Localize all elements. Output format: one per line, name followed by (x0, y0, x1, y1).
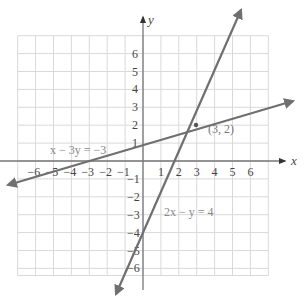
x-tick-label: 2 (176, 165, 182, 179)
x-tick-label: 5 (230, 165, 236, 179)
equation-label-2: 2x − y = 4 (164, 205, 214, 219)
y-tick-label: 4 (132, 82, 138, 96)
y-tick-label: 3 (132, 100, 138, 114)
y-tick-label: −1 (127, 172, 140, 186)
y-tick-label: 2 (132, 118, 138, 132)
intersection-label: (3, 2) (208, 122, 234, 136)
x-axis-label: x (290, 153, 297, 168)
equation-label-1: x − 3y = −3 (50, 143, 106, 157)
y-tick-label: 5 (132, 65, 138, 79)
x-tick-label: 4 (212, 165, 218, 179)
y-tick-label: −2 (127, 190, 140, 204)
y-tick-label: −4 (127, 226, 140, 240)
y-axis-label: y (146, 12, 154, 27)
x-tick-label: 1 (158, 165, 164, 179)
y-tick-label: 6 (132, 47, 138, 61)
x-tick-label: −2 (99, 165, 112, 179)
x-tick-label: 3 (194, 165, 200, 179)
intersection-point (194, 123, 198, 127)
x-tick-label: −3 (81, 165, 94, 179)
coordinate-plane: x y −6−5−4−3−2−1123456654321−1−2−3−4−5−6… (0, 0, 308, 308)
y-tick-label: −3 (127, 208, 140, 222)
x-tick-label: 6 (247, 165, 253, 179)
